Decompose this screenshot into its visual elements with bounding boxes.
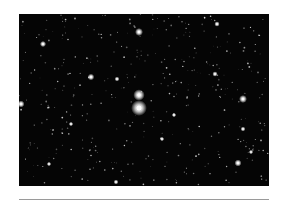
divider-line — [19, 199, 269, 200]
starfield-image — [19, 14, 269, 186]
starfield-canvas — [19, 14, 269, 186]
